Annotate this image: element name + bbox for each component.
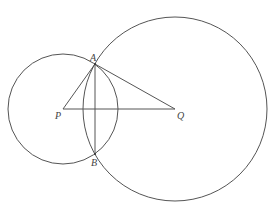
label-q: Q [177, 110, 185, 121]
geometry-diagram: A B P Q [0, 0, 271, 209]
label-a: A [89, 52, 97, 63]
segment-aq [95, 64, 175, 109]
segment-pa [63, 64, 95, 109]
point-b-dot [94, 153, 96, 155]
label-p: P [54, 110, 61, 121]
label-b: B [91, 157, 97, 168]
point-a-dot [94, 63, 96, 65]
